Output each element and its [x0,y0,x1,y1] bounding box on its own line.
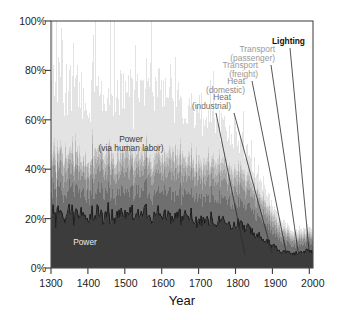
y-tick-40: 40% [25,163,46,175]
x-tick-1400: 1400 [77,277,101,289]
x-tick-1300: 1300 [39,277,63,289]
x-tick-1700: 1700 [189,277,213,289]
label-heat-domestic-line2: (domestic) [206,85,245,95]
label-heat-industrial-line2: (industrial) [192,101,231,111]
x-tick-1600: 1600 [152,277,176,289]
stacked-area-chart: 100% 80% 60% 40% 20% 0% 1300 1400 1500 1… [0,0,342,320]
y-tick-60: 60% [25,114,46,126]
label-power-inline: Power [73,237,97,247]
chart-canvas: 100% 80% 60% 40% 20% 0% 1300 1400 1500 1… [0,0,342,320]
x-tick-1500: 1500 [114,277,138,289]
y-tick-0: 0% [31,262,46,274]
label-transport-freight-line2: (freight) [229,69,258,79]
y-tick-100: 100% [19,15,46,27]
x-axis-title: Year [169,293,196,308]
label-power-human-line2: (via human labor) [98,143,163,153]
y-tick-80: 80% [25,64,46,76]
x-tick-1900: 1900 [264,277,288,289]
label-lighting: Lighting [272,36,305,46]
label-transport-passenger-line2: (passenger) [230,53,275,63]
y-tick-20: 20% [25,213,46,225]
x-tick-1800: 1800 [226,277,250,289]
x-tick-2000: 2000 [301,277,325,289]
